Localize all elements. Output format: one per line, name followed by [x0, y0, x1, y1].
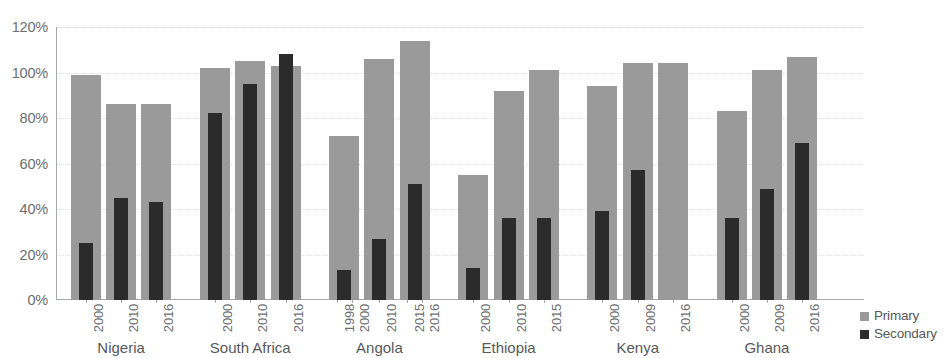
x-axis-tick: [509, 300, 510, 303]
x-axis-tick: [602, 300, 603, 303]
x-axis-tick: [802, 300, 803, 303]
legend-label-primary: Primary: [874, 309, 919, 323]
x-axis-year-label: 2000: [221, 304, 234, 332]
y-axis-tick-label: 40%: [20, 202, 48, 217]
x-axis-tick: [121, 300, 122, 303]
x-axis-year-label: 2009: [644, 304, 657, 332]
bar-secondary: [208, 113, 222, 300]
x-axis-tick: [638, 300, 639, 303]
x-axis-year-label: 2000: [608, 304, 621, 332]
x-axis-group-label: Angola: [356, 340, 403, 355]
x-axis-year-label: 2010: [256, 304, 269, 332]
y-axis-tick-label: 60%: [20, 156, 48, 171]
grouped-bar-chart: 0%20%40%60%80%100%120% 200020102016Niger…: [0, 0, 944, 358]
x-axis-year-label: 2016: [162, 304, 175, 332]
x-axis-year-label: 2009: [773, 304, 786, 332]
x-axis-tick: [352, 300, 353, 303]
x-axis-group-label: Kenya: [616, 340, 659, 355]
bar-secondary: [79, 243, 93, 300]
y-axis-tick-label: 120%: [12, 20, 48, 35]
x-axis-year-label: 1998: [343, 304, 356, 332]
y-axis: 0%20%40%60%80%100%120%: [0, 0, 54, 358]
x-axis-year-label: 2010: [385, 304, 398, 332]
y-axis-tick-label: 20%: [20, 247, 48, 262]
cut-off-title-strip: [0, 0, 944, 8]
legend-label-secondary: Secondary: [874, 327, 937, 341]
x-axis-group-label: Ethiopia: [481, 340, 535, 355]
legend-item-primary: Primary: [860, 307, 944, 325]
legend-swatch-primary-icon: [860, 312, 869, 321]
x-axis-year-label: 2000: [479, 304, 492, 332]
x-axis-year-label: 2015: [413, 304, 426, 332]
x-axis-tick: [673, 300, 674, 303]
x-axis-tick: [544, 300, 545, 303]
x-axis-tick: [86, 300, 87, 303]
x-axis-year-label: 2000: [92, 304, 105, 332]
x-axis-year-label: 2000: [738, 304, 751, 332]
x-axis-group-label: Nigeria: [97, 340, 145, 355]
x-axis: 200020102016Nigeria200020102016South Afr…: [56, 300, 864, 358]
x-axis-year-label: 2010: [515, 304, 528, 332]
plot-area: [56, 27, 864, 300]
x-axis-tick: [732, 300, 733, 303]
bar-secondary: [725, 218, 739, 300]
x-axis-tick: [422, 300, 423, 303]
bar-secondary: [537, 218, 551, 300]
bar-primary: [658, 63, 688, 300]
x-axis-year-label: 2016: [808, 304, 821, 332]
x-axis-tick: [767, 300, 768, 303]
x-axis-tick: [337, 300, 338, 303]
x-axis-group-label: Ghana: [744, 340, 789, 355]
x-axis-tick: [250, 300, 251, 303]
bar-secondary: [466, 268, 480, 300]
bar-secondary: [337, 270, 351, 300]
y-axis-tick-label: 80%: [20, 111, 48, 126]
x-axis-year-label: 2000: [358, 304, 371, 332]
bar-secondary: [760, 189, 774, 300]
legend-swatch-secondary-icon: [860, 330, 869, 339]
bar-secondary: [243, 84, 257, 300]
x-axis-year-label: 2016: [428, 304, 441, 332]
x-axis-year-label: 2016: [292, 304, 305, 332]
bar-secondary: [502, 218, 516, 300]
x-axis-group-label: South Africa: [210, 340, 291, 355]
bar-secondary: [595, 211, 609, 300]
x-axis-year-label: 2016: [679, 304, 692, 332]
x-axis-tick: [473, 300, 474, 303]
x-axis-tick: [156, 300, 157, 303]
y-axis-tick-label: 100%: [12, 65, 48, 80]
x-axis-year-label: 2015: [550, 304, 563, 332]
bar-secondary: [279, 54, 293, 300]
y-axis-tick-label: 0%: [27, 293, 48, 308]
x-axis-tick: [379, 300, 380, 303]
bars-layer: [56, 27, 864, 300]
bar-secondary: [114, 198, 128, 300]
bar-secondary: [149, 202, 163, 300]
legend-item-secondary: Secondary: [860, 325, 944, 343]
chart-legend: Primary Secondary: [860, 307, 944, 343]
x-axis-year-label: 2010: [127, 304, 140, 332]
x-axis-tick: [407, 300, 408, 303]
x-axis-tick: [286, 300, 287, 303]
bar-secondary: [372, 239, 386, 300]
bar-secondary: [631, 170, 645, 300]
bar-secondary: [408, 184, 422, 300]
x-axis-tick: [215, 300, 216, 303]
bar-secondary: [795, 143, 809, 300]
